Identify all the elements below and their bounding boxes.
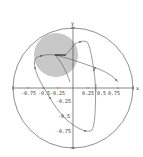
sample-point [93, 69, 95, 71]
x-tick: -0.25 [50, 90, 65, 96]
y-axis-label: y [71, 20, 74, 27]
x-tick: 0.5 [97, 90, 106, 96]
y-tick: -0.75 [56, 128, 71, 134]
sample-point [94, 67, 96, 69]
diagram-canvas: y x -0.75 -0.5 -0.25 0.25 0.5 0.75 -0.25… [0, 0, 143, 157]
x-tick: -0.75 [21, 90, 36, 96]
sample-point [40, 55, 42, 57]
sample-point [49, 97, 51, 99]
x-tick: 0.75 [108, 90, 120, 96]
sample-point [84, 130, 86, 132]
x-tick: 0.25 [82, 90, 94, 96]
sample-point [79, 41, 81, 43]
y-tick: -0.25 [56, 98, 71, 104]
y-tick: -0.5 [58, 113, 70, 119]
x-axis-label: x [136, 85, 139, 91]
sample-point [115, 79, 117, 81]
sample-point [34, 67, 36, 69]
